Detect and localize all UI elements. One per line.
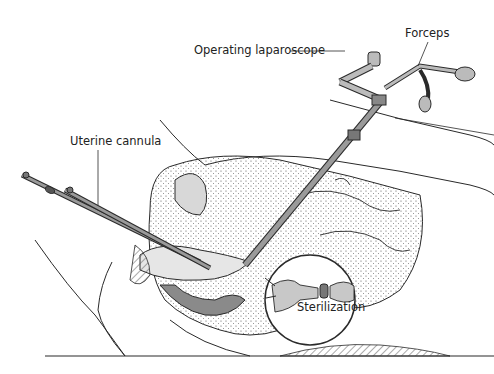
leader-forceps	[418, 42, 428, 66]
label-operating-laparoscope: Operating laparoscope	[194, 45, 325, 57]
table-hatch	[280, 344, 450, 356]
label-uterine-cannula: Uterine cannula	[70, 136, 161, 148]
label-sterilization: Sterilization	[297, 302, 365, 314]
forceps	[385, 66, 494, 135]
laparoscopy-diagram: Operating laparoscope Forceps Uterine ca…	[0, 0, 494, 374]
label-forceps: Forceps	[405, 28, 449, 40]
